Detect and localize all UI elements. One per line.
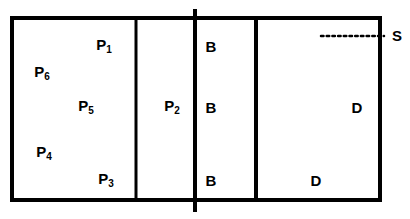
label-base: D (352, 99, 363, 116)
label-base: B (206, 38, 217, 55)
label-p3: P3 (98, 171, 114, 189)
label-base: S (392, 27, 402, 44)
label-base: P (36, 143, 46, 160)
label-s: S (392, 28, 402, 43)
label-base: B (206, 99, 217, 116)
label-d-mid: D (352, 100, 363, 115)
label-p6: P6 (34, 64, 50, 82)
zone-diagram: P1P6P5P2P4P3BBBDDS (0, 0, 410, 219)
label-p4: P4 (36, 144, 52, 162)
label-p1: P1 (96, 37, 112, 55)
label-subscript: 5 (88, 105, 94, 116)
label-base: B (206, 172, 217, 189)
label-base: P (34, 63, 44, 80)
label-subscript: 1 (106, 44, 112, 55)
label-subscript: 3 (108, 178, 114, 189)
label-subscript: 2 (174, 105, 180, 116)
label-base: P (98, 170, 108, 187)
label-p5: P5 (78, 98, 94, 116)
label-b-bot: B (206, 173, 217, 188)
label-base: P (78, 97, 88, 114)
label-p2: P2 (164, 98, 180, 116)
label-subscript: 6 (44, 71, 50, 82)
label-b-top: B (206, 39, 217, 54)
label-base: P (96, 36, 106, 53)
label-subscript: 4 (46, 151, 52, 162)
label-d-bot: D (311, 173, 322, 188)
label-b-mid: B (206, 100, 217, 115)
label-base: D (311, 172, 322, 189)
label-base: P (164, 97, 174, 114)
